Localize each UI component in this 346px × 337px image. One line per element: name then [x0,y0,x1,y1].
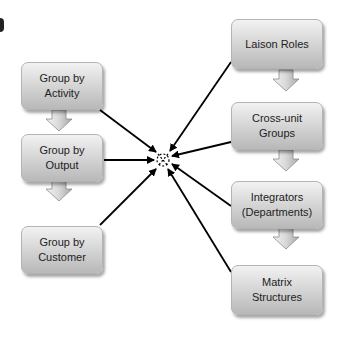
box-label-line: Group by [39,71,84,86]
box-group-by-customer: Group byCustomer [21,226,103,274]
connector-activity [100,110,156,152]
connector-customer [100,169,156,225]
box-label-line: Output [39,158,84,173]
box-label-line: Laison Roles [245,37,309,52]
box-matrix-structures: MatrixStructures [231,265,323,315]
box-label-line: Integrators [242,190,312,205]
box-laison-roles: Laison Roles [231,19,323,69]
box-cross-unit-groups: Cross-unitGroups [231,102,323,150]
box-label-line: Group by [39,143,84,158]
box-group-by-activity: Group byActivity [21,62,103,110]
diagram-canvas: Group byActivity Group byOutput Group by… [0,0,346,337]
box-label-line: Structures [252,290,302,305]
box-label-line: Groups [252,126,302,141]
box-integrators: Integrators(Departments) [231,181,323,229]
box-label-line: (Departments) [242,205,312,220]
box-label-line: Matrix [252,275,302,290]
connector-crossunit [172,142,231,156]
box-label-line: Activity [39,86,84,101]
connector-liaison [170,62,231,151]
box-group-by-output: Group byOutput [21,134,103,182]
burst-target-icon [157,154,169,166]
box-label-line: Group by [38,235,86,250]
box-label-line: Cross-unit [252,111,302,126]
connector-integrators [172,164,231,206]
box-label-line: Customer [38,250,86,265]
